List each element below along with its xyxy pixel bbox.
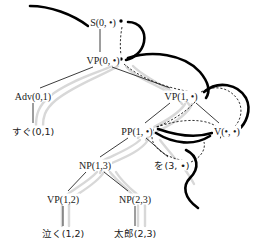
arc-pp-v (158, 129, 212, 136)
node-label-vp0: VP(0, •) (86, 55, 121, 66)
node-label-vp12: VP(1,2) (46, 194, 80, 205)
node-label-vp1: VP(1, •) (164, 91, 199, 102)
node-label-s: S(0, •) (89, 17, 117, 28)
node-label-pp: PP(1, •) (120, 126, 153, 137)
node-label-sugu: すぐ(0,1) (11, 126, 56, 137)
dash-s-vp0 (120, 27, 122, 55)
node-label-np23: NP(2,3) (118, 194, 152, 205)
edge-vp0-vp1 (112, 67, 170, 88)
thick-arcs (30, 6, 248, 208)
parse-tree-figure: S(0, •) VP(0, •) Adv(0,1) すぐ(0,1) VP(1, … (0, 0, 254, 247)
node-label-taro: 太郎(2,3) (113, 228, 158, 239)
arc-vp1-right (204, 85, 248, 130)
node-label-naku: 泣く(1,2) (41, 228, 86, 239)
node-label-v: V(•, •) (213, 126, 241, 137)
tree-graphics (0, 0, 254, 247)
arc-top-left (30, 6, 88, 26)
edge-vp1-v (196, 103, 219, 123)
node-label-np13: NP(1,3) (78, 160, 112, 171)
dash-wo-right (191, 142, 204, 162)
node-label-adv: Adv(0,1) (14, 91, 52, 102)
node-label-wo: を(3, •) (153, 160, 190, 171)
